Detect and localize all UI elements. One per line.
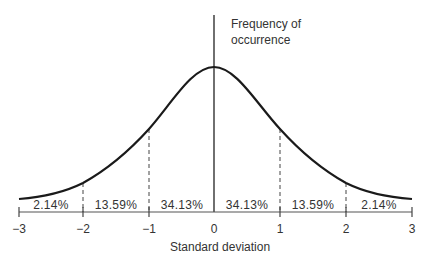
x-tick-label: 1	[277, 222, 284, 236]
region-label: 13.59%	[292, 198, 335, 212]
region-label: 34.13%	[161, 198, 204, 212]
bell-curve	[19, 67, 412, 199]
x-tick-label: −1	[142, 222, 156, 236]
region-label: 13.59%	[95, 198, 138, 212]
x-tick-label: 3	[409, 222, 416, 236]
x-tick-label: 2	[343, 222, 350, 236]
x-tick-label: 0	[211, 222, 218, 236]
x-tick-label: −3	[12, 222, 26, 236]
y-axis-label-line2: occurrence	[231, 33, 290, 47]
x-tick-label: −2	[76, 222, 90, 236]
region-label: 2.14%	[33, 198, 69, 212]
x-axis-label: Standard deviation	[170, 240, 270, 254]
region-label: 2.14%	[361, 198, 397, 212]
y-axis-label-line1: Frequency of	[231, 17, 301, 31]
region-label: 34.13%	[226, 198, 269, 212]
